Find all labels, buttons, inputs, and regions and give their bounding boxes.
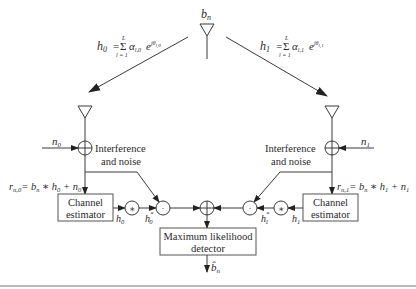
svg-text:αl,0: αl,0 <box>129 40 141 53</box>
svg-text:Σ: Σ <box>283 40 289 52</box>
svg-text:ejθl,1: ejθl,1 <box>309 40 324 52</box>
svg-text:Σ: Σ <box>120 40 126 52</box>
channel-estimate-right-label: h1 <box>292 213 300 225</box>
channel-estimator-right-block: Channel estimator <box>303 194 358 221</box>
svg-text:=: = <box>276 40 282 52</box>
conjugate-left-label: h*0 <box>145 210 154 225</box>
svg-text:∗: ∗ <box>129 204 135 214</box>
receive-antenna-right-icon <box>325 106 339 141</box>
transmit-antenna-icon <box>200 24 214 59</box>
conjugate-left-icon: ∗ <box>125 201 139 215</box>
svg-text:∗: ∗ <box>278 204 284 214</box>
svg-text:ejθl,0: ejθl,0 <box>146 40 161 52</box>
noise-right-label: n1 <box>361 135 370 149</box>
noise-left-label: n0 <box>52 135 62 149</box>
channel-estimator-left-block: Channel estimator <box>58 194 113 221</box>
received-signal-right-formula: rn,1= bn ∗ h1 + n1 <box>337 181 409 193</box>
noise-adder-right-icon <box>325 141 339 155</box>
channel-formula-left: h0 = L Σ l = 1 αl,0 ejθl,0 <box>97 35 161 58</box>
svg-text:estimator: estimator <box>66 209 106 220</box>
svg-text:=: = <box>113 40 119 52</box>
interference-right-label-2: and noise <box>271 156 311 167</box>
conjugate-right-icon: ∗ <box>274 201 288 215</box>
channel-formula-right: h1 = L Σ l = 1 αl,1 ejθl,1 <box>260 35 324 58</box>
svg-text:l = 1: l = 1 <box>116 52 128 58</box>
svg-text:l = 1: l = 1 <box>279 52 291 58</box>
multiplier-right-icon: · <box>243 201 257 215</box>
interference-left-label-1: Interference <box>95 143 146 154</box>
svg-text:Maximum likelihood: Maximum likelihood <box>164 231 254 242</box>
ml-detector-block: Maximum likelihood detector <box>160 228 256 255</box>
receive-antenna-left-icon <box>78 106 92 141</box>
svg-text:Channel: Channel <box>68 197 103 208</box>
combiner-adder-icon <box>200 201 214 215</box>
channel-estimate-left-label: h0 <box>116 213 125 225</box>
interference-right-label-1: Interference <box>265 143 316 154</box>
svg-text:h0: h0 <box>97 39 107 54</box>
transmit-symbol-label: bn <box>201 7 211 22</box>
svg-text:·: · <box>249 203 252 213</box>
svg-text:h1: h1 <box>260 39 270 54</box>
mrc-receiver-diagram: bn h0 = L Σ l = 1 αl,0 ejθl,0 h1 = L Σ l… <box>0 0 416 289</box>
output-symbol-label: b̂n <box>211 261 221 275</box>
svg-text:·: · <box>162 203 165 213</box>
svg-text:αl,1: αl,1 <box>292 40 304 53</box>
interference-left-label-2: and noise <box>101 156 141 167</box>
multiplier-left-icon: · <box>156 201 170 215</box>
svg-text:estimator: estimator <box>311 209 351 220</box>
svg-text:Channel: Channel <box>313 197 348 208</box>
svg-text:detector: detector <box>191 243 225 254</box>
conjugate-right-label: h*1 <box>261 210 270 225</box>
received-signal-left-formula: rn,0= bn ∗ h0 + n0 <box>9 181 82 193</box>
noise-adder-left-icon <box>78 141 92 155</box>
